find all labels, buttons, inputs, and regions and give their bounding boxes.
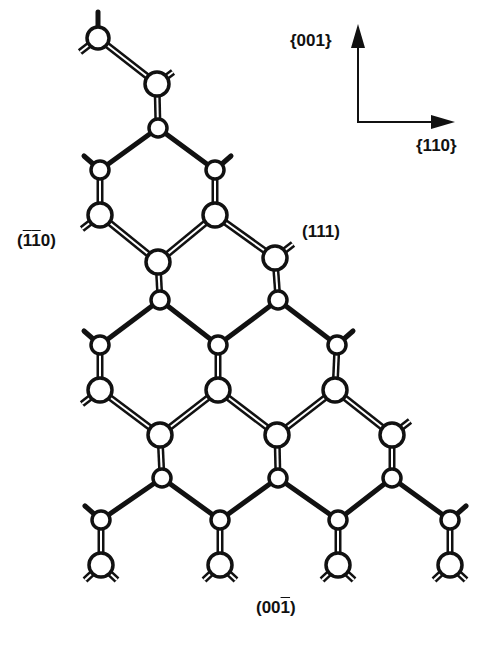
axis-label-001: {001} xyxy=(290,31,332,51)
up-arrowhead-icon xyxy=(351,24,365,48)
surface-label-111: (111) xyxy=(302,222,340,242)
index-h-bar: 1 xyxy=(23,231,32,250)
atom-small xyxy=(328,336,346,354)
index-k-bar: 1 xyxy=(31,231,40,250)
atom-large xyxy=(87,27,109,49)
atom-small xyxy=(269,291,287,309)
atom-large xyxy=(438,553,462,577)
atom-large xyxy=(203,203,227,227)
atom-small xyxy=(206,161,224,179)
orientation-axes xyxy=(351,24,455,129)
atom-large xyxy=(88,378,112,402)
atom-large xyxy=(265,423,289,447)
atom-large xyxy=(89,553,113,577)
right-arrowhead-icon xyxy=(431,115,455,129)
atom-large xyxy=(263,246,287,270)
atom-small xyxy=(149,119,167,137)
atom-large xyxy=(148,423,172,447)
atom-small xyxy=(91,336,109,354)
single-bond xyxy=(278,478,338,520)
atom-small xyxy=(91,161,109,179)
atom-large xyxy=(88,203,112,227)
single-bond xyxy=(218,300,278,345)
atom-large xyxy=(146,250,170,274)
surface-label-bar1-bar1-0: (110) xyxy=(17,231,56,251)
atom-large xyxy=(323,378,347,402)
atom-small xyxy=(329,511,347,529)
atom-small xyxy=(209,336,227,354)
index-l-bar: 1 xyxy=(281,598,290,617)
atom-small xyxy=(383,469,401,487)
atom-small xyxy=(151,291,169,309)
atom-large xyxy=(206,378,230,402)
atom-small xyxy=(153,469,171,487)
atom-large xyxy=(380,423,404,447)
atom-small xyxy=(211,511,229,529)
index-post: ) xyxy=(290,598,296,617)
index-pre: (00 xyxy=(256,598,281,617)
single-bond xyxy=(160,300,218,345)
atoms xyxy=(87,27,462,577)
atom-small xyxy=(92,511,110,529)
crystal-lattice-diagram xyxy=(0,0,486,645)
single-bond xyxy=(100,300,160,345)
index-l-rest: 0) xyxy=(41,231,56,250)
axis-label-110: {110} xyxy=(416,136,457,156)
atom-large xyxy=(145,72,169,96)
atom-large xyxy=(208,553,232,577)
single-bond xyxy=(278,300,337,345)
single-bond xyxy=(101,478,162,520)
surface-label-00-bar1: (001) xyxy=(256,598,296,618)
atom-small xyxy=(441,511,459,529)
atom-small xyxy=(269,469,287,487)
atom-large xyxy=(326,553,350,577)
